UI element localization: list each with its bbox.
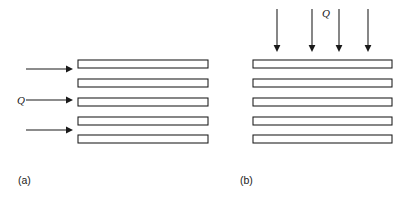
- panel-b: Q (b): [240, 7, 392, 186]
- flow-arrow-horizontal: [26, 127, 73, 134]
- panel-label-b: (b): [240, 174, 253, 186]
- flow-arrow-horizontal: [26, 97, 73, 104]
- plate: [253, 98, 392, 106]
- plate: [78, 117, 208, 125]
- plate: [253, 60, 392, 68]
- flow-arrow-vertical: [336, 9, 343, 52]
- flow-arrow-horizontal: [26, 66, 73, 73]
- flow-label-q-panel-b: Q: [322, 7, 330, 19]
- plate: [253, 79, 392, 87]
- panel-b-plate-stack: [253, 60, 392, 143]
- figure-canvas: Q (a): [0, 0, 407, 202]
- plate: [78, 79, 208, 87]
- flow-label-q-panel-a: Q: [17, 94, 25, 106]
- plate: [78, 98, 208, 106]
- flow-arrow-vertical: [274, 9, 281, 52]
- flow-arrow-vertical: [309, 9, 316, 52]
- plate: [78, 135, 208, 143]
- panel-a-flow-arrows: [26, 66, 73, 134]
- plate: [253, 117, 392, 125]
- panel-label-a: (a): [18, 174, 31, 186]
- plate: [253, 135, 392, 143]
- plate: [78, 60, 208, 68]
- panel-a-plate-stack: [78, 60, 208, 143]
- flow-arrow-vertical: [365, 9, 372, 52]
- figure-container: Q (a): [0, 0, 407, 202]
- panel-a: Q (a): [17, 60, 208, 186]
